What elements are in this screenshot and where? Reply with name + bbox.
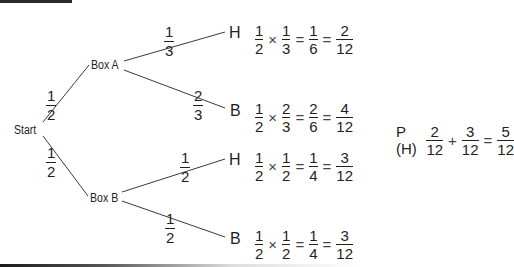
prob-start-box-a: 12 — [46, 88, 56, 123]
result-label: P (H) — [396, 123, 421, 157]
box-a-node: Box A — [91, 59, 119, 71]
prob-box-b-b: 12 — [165, 211, 175, 246]
calc-b-b: 12 × 12 = 14 = 312 — [255, 228, 353, 261]
prob-box-b-h: 12 — [180, 150, 190, 185]
outcome-b-h: H — [229, 152, 241, 168]
calc-a-h: 12 × 13 = 16 = 212 — [255, 23, 353, 56]
calc-a-b: 12 × 23 = 26 = 412 — [255, 101, 353, 134]
outcome-a-h: H — [229, 25, 241, 41]
box-b-node: Box B — [90, 192, 118, 204]
outcome-b-b: B — [230, 231, 241, 247]
prob-box-a-b: 23 — [193, 88, 203, 123]
prob-start-box-b: 12 — [46, 145, 56, 180]
start-node: Start — [14, 124, 36, 136]
calc-b-h: 12 × 12 = 14 = 312 — [255, 150, 353, 183]
branch-box-a-b — [124, 70, 225, 108]
total-probability-h: P (H) 212 + 312 = 512 — [396, 123, 514, 157]
branch-box-a-h — [124, 32, 225, 61]
branch-box-b-h — [122, 159, 225, 192]
outcome-a-b: B — [230, 103, 241, 119]
prob-box-a-h: 13 — [164, 24, 174, 59]
